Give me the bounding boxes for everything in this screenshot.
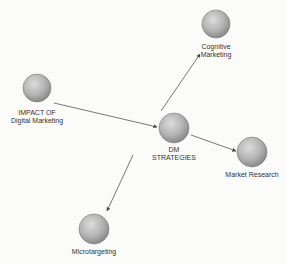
node-label-micro: Microtargeting: [72, 248, 116, 256]
node-label-line2: Digital Marketing: [11, 117, 63, 125]
edge-arrow-dm-to-market: [191, 135, 236, 151]
edge-arrow-impact-to-dm: [54, 103, 157, 127]
node-label-impact: IMPACT OFDigital Marketing: [11, 109, 63, 125]
node-label-cognitive: CognitiveMarketing: [201, 43, 232, 59]
node-label-line2: STRATEGIES: [152, 154, 196, 162]
node-label-line1: Microtargeting: [72, 248, 116, 256]
node-label-line1: DM: [152, 146, 196, 154]
node-sphere-cognitive[interactable]: [202, 10, 230, 38]
node-sphere-impact[interactable]: [23, 74, 51, 102]
edge-arrow-dm-to-cognitive: [161, 54, 200, 111]
concept-map-canvas: [0, 0, 286, 264]
edge-arrow-dm-to-micro: [107, 155, 133, 211]
node-sphere-micro[interactable]: [79, 214, 109, 244]
node-sphere-market[interactable]: [237, 137, 267, 167]
node-label-market: Market Research: [225, 171, 278, 179]
node-label-line1: Market Research: [225, 171, 278, 179]
node-label-line2: Marketing: [201, 51, 232, 59]
node-sphere-dm[interactable]: [159, 113, 189, 143]
node-label-line1: IMPACT OF: [11, 109, 63, 117]
node-label-line1: Cognitive: [201, 43, 232, 51]
edges-layer: [54, 54, 236, 211]
node-label-dm: DMSTRATEGIES: [152, 146, 196, 162]
